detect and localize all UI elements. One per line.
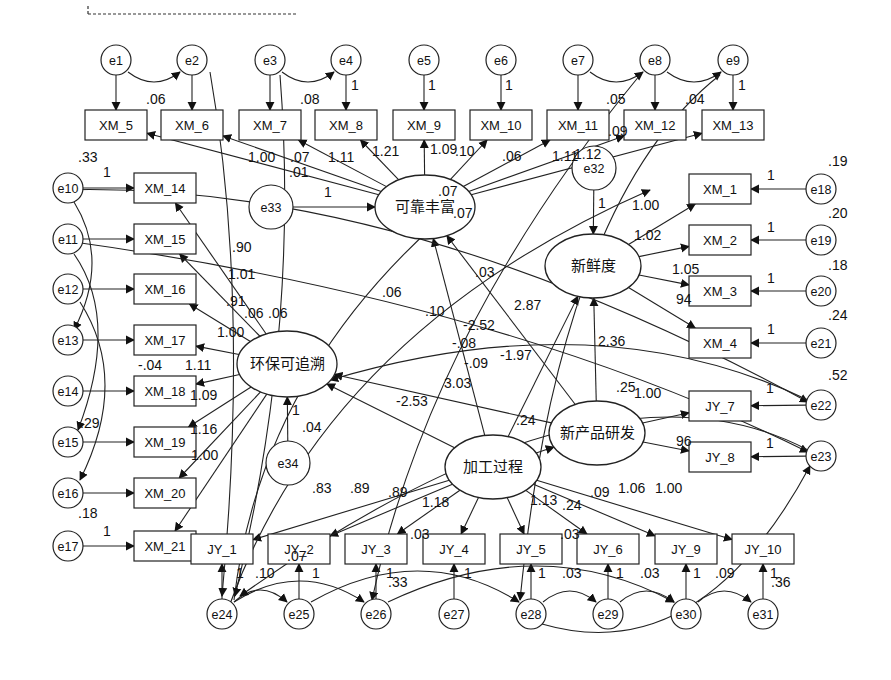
error-term-e12: e12 bbox=[53, 274, 83, 304]
covariance-arc-11 bbox=[698, 591, 751, 602]
error-label: e33 bbox=[261, 201, 282, 215]
path-e22-to-JY_7 bbox=[751, 405, 806, 406]
observed-label: XM_18 bbox=[144, 384, 185, 399]
coefficient-label: 1.11 bbox=[328, 149, 354, 165]
observed-variable-xm-1: XM_1 bbox=[689, 174, 751, 204]
error-label: e25 bbox=[289, 608, 310, 622]
coefficient-label: .03 bbox=[560, 526, 580, 542]
observed-label: XM_12 bbox=[634, 118, 675, 133]
coefficient-label: 2.87 bbox=[514, 297, 541, 313]
latent-label: 加工过程 bbox=[463, 458, 523, 476]
coefficient-label: 1 bbox=[770, 565, 778, 581]
error-label: e18 bbox=[811, 183, 832, 197]
observed-variable-xm-9: XM_9 bbox=[393, 110, 455, 140]
sem-path-diagram: XM_5XM_6XM_7XM_8XM_9XM_10XM_11XM_12XM_13… bbox=[0, 0, 891, 680]
error-term-e27: e27 bbox=[439, 599, 469, 629]
coefficient-label: -.04 bbox=[138, 357, 162, 373]
observed-variable-jy-1: JY_1 bbox=[191, 534, 253, 564]
error-label: e30 bbox=[676, 608, 697, 622]
coefficient-label: 94 bbox=[676, 291, 692, 307]
error-label: e9 bbox=[726, 54, 740, 68]
coefficient-label: .89 bbox=[388, 484, 408, 500]
path-L3-to-XM_17 bbox=[196, 346, 239, 354]
error-term-e18: e18 bbox=[806, 174, 836, 204]
error-term-e30: e30 bbox=[671, 599, 701, 629]
observed-variable-xm-13: XM_13 bbox=[702, 110, 764, 140]
coefficient-label: .06 bbox=[268, 305, 288, 321]
error-label: e26 bbox=[366, 608, 387, 622]
error-term-e2: e2 bbox=[177, 45, 207, 75]
observed-label: XM_10 bbox=[480, 118, 521, 133]
error-term-e31: e31 bbox=[748, 599, 778, 629]
coefficient-label: 1.13 bbox=[530, 492, 557, 508]
error-label: e16 bbox=[58, 487, 79, 501]
observed-label: XM_21 bbox=[144, 539, 185, 554]
error-term-e5: e5 bbox=[409, 45, 439, 75]
coefficient-label: .01 bbox=[289, 164, 309, 180]
covariance-arc-7 bbox=[311, 571, 519, 602]
coefficient-label: 1 bbox=[767, 167, 775, 183]
observed-label: XM_8 bbox=[329, 118, 363, 133]
error-term-e20: e20 bbox=[806, 276, 836, 306]
observed-label: JY_6 bbox=[593, 542, 623, 557]
error-label: e22 bbox=[811, 399, 832, 413]
error-label: e10 bbox=[58, 182, 79, 196]
path-L5-to-L3 bbox=[327, 384, 455, 448]
coefficient-label: 1 bbox=[738, 77, 746, 93]
coefficient-label: .91 bbox=[226, 293, 246, 309]
path-L5-to-JY_5 bbox=[507, 498, 524, 534]
error-label: e17 bbox=[58, 540, 79, 554]
coefficient-label: .09 bbox=[608, 123, 628, 139]
error-label: e2 bbox=[185, 54, 199, 68]
path-L3-to-XM_21 bbox=[175, 394, 267, 531]
header-fragment bbox=[88, 6, 296, 14]
observed-label: XM_2 bbox=[703, 233, 737, 248]
observed-variable-xm-20: XM_20 bbox=[134, 478, 196, 508]
coefficient-label: 1 bbox=[351, 77, 359, 93]
coefficient-label: -1.97 bbox=[500, 347, 532, 363]
coefficient-label: 1 bbox=[386, 565, 394, 581]
error-label: e13 bbox=[58, 334, 79, 348]
error-term-e13: e13 bbox=[53, 325, 83, 355]
error-term-e8: e8 bbox=[640, 45, 670, 75]
observed-variable-xm-7: XM_7 bbox=[239, 110, 301, 140]
observed-label: XM_3 bbox=[703, 284, 737, 299]
coefficient-label: 1.00 bbox=[248, 149, 275, 165]
coefficient-label: .18 bbox=[828, 257, 848, 273]
observed-variable-xm-18: XM_18 bbox=[134, 376, 196, 406]
observed-label: XM_15 bbox=[144, 232, 185, 247]
coefficient-label: .10 bbox=[455, 143, 475, 159]
coefficient-label: .33 bbox=[78, 149, 98, 165]
observed-label: JY_8 bbox=[705, 450, 735, 465]
coefficient-label: .25 bbox=[616, 379, 636, 395]
error-term-e33: e33 bbox=[249, 185, 293, 229]
observed-label: XM_20 bbox=[144, 486, 185, 501]
error-term-e19: e19 bbox=[806, 225, 836, 255]
observed-variable-xm-6: XM_6 bbox=[161, 110, 223, 140]
error-label: e21 bbox=[811, 337, 832, 351]
coefficient-label: 1.12 bbox=[574, 146, 601, 162]
coefficient-label: 1 bbox=[693, 565, 701, 581]
observed-label: JY_4 bbox=[439, 542, 469, 557]
coefficient-label: .29 bbox=[80, 415, 100, 431]
coefficient-label: 1 bbox=[324, 184, 332, 200]
observed-label: XM_14 bbox=[144, 181, 185, 196]
coefficient-label: .52 bbox=[828, 367, 848, 383]
error-term-e34: e34 bbox=[266, 441, 310, 485]
latent-label: 环保可追溯 bbox=[250, 355, 325, 373]
coefficient-label: -2.53 bbox=[396, 393, 428, 409]
coefficient-label: 1 bbox=[103, 523, 111, 539]
error-term-e23: e23 bbox=[806, 441, 836, 471]
coefficient-label: 1 bbox=[538, 565, 546, 581]
covariance-arc-5 bbox=[234, 590, 287, 602]
coefficient-label: 1.06 bbox=[618, 480, 645, 496]
error-term-e21: e21 bbox=[806, 328, 836, 358]
error-label: e6 bbox=[494, 54, 508, 68]
observed-variable-jy-5: JY_5 bbox=[500, 534, 562, 564]
coefficient-label: .07 bbox=[287, 548, 307, 564]
error-label: e29 bbox=[598, 608, 619, 622]
error-label: e19 bbox=[811, 234, 832, 248]
covariance-arc-9 bbox=[543, 591, 596, 602]
observed-variable-xm-17: XM_17 bbox=[134, 325, 196, 355]
coefficient-label: 1.00 bbox=[655, 480, 682, 496]
